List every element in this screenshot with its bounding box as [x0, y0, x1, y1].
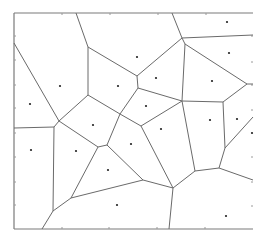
voronoi-edge — [219, 168, 253, 180]
voronoi-edge — [88, 47, 137, 76]
site-point — [211, 80, 213, 82]
voronoi-edge — [223, 102, 225, 148]
site-point — [251, 132, 253, 134]
voronoi-edge — [14, 127, 54, 128]
voronoi-edge — [195, 168, 219, 171]
site-point — [59, 85, 61, 87]
voronoi-edge — [54, 121, 59, 127]
voronoi-edge — [143, 180, 173, 188]
voronoi-edge — [138, 88, 182, 101]
voronoi-edge — [76, 13, 88, 47]
site-point — [145, 105, 147, 107]
voronoi-edge — [219, 148, 225, 168]
voronoi-edge — [169, 188, 173, 229]
site-point — [29, 103, 31, 105]
voronoi-edge — [182, 101, 223, 102]
voronoi-edge — [107, 114, 120, 145]
site-point — [136, 56, 138, 58]
site-point — [107, 169, 109, 171]
voronoi-edge — [98, 145, 107, 147]
voronoi-sites — [29, 21, 253, 217]
voronoi-edge — [14, 43, 59, 121]
site-point — [117, 85, 119, 87]
voronoi-edge — [182, 35, 253, 38]
voronoi-edge — [53, 127, 54, 211]
site-point — [228, 52, 230, 54]
voronoi-edge — [88, 95, 120, 114]
voronoi-edge — [53, 198, 71, 211]
voronoi-edge — [182, 101, 195, 171]
site-point — [160, 128, 162, 130]
site-point — [75, 150, 77, 152]
voronoi-edge — [42, 211, 53, 229]
voronoi-edge — [137, 76, 138, 88]
voronoi-edge — [172, 13, 182, 38]
voronoi-edge — [71, 147, 98, 198]
voronoi-edge — [182, 38, 185, 44]
voronoi-edge — [182, 44, 185, 101]
voronoi-edge — [120, 114, 141, 126]
voronoi-edge — [225, 117, 253, 148]
voronoi-edge — [71, 180, 143, 198]
site-point — [116, 204, 118, 206]
voronoi-edge — [173, 171, 195, 188]
voronoi-edge — [185, 44, 247, 84]
site-point — [209, 119, 211, 121]
voronoi-edge — [107, 145, 143, 180]
voronoi-edge — [59, 95, 88, 121]
site-point — [225, 215, 227, 217]
site-point — [92, 124, 94, 126]
site-point — [130, 143, 132, 145]
site-point — [30, 149, 32, 151]
site-point — [155, 77, 157, 79]
site-point — [236, 118, 238, 120]
voronoi-edge — [137, 38, 182, 76]
voronoi-diagram — [0, 0, 268, 241]
plot-border — [14, 13, 253, 229]
site-point — [226, 21, 228, 23]
voronoi-edge — [120, 88, 138, 114]
voronoi-edge — [141, 126, 173, 188]
voronoi-edge — [223, 84, 247, 102]
voronoi-edges — [14, 13, 253, 229]
axis-ticks — [14, 13, 253, 229]
voronoi-edge — [141, 101, 182, 126]
